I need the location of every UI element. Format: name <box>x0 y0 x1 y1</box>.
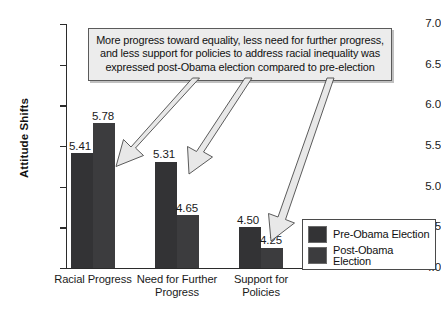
y-tick-6.0 <box>60 105 67 106</box>
category-label-racial-progress: Racial Progress <box>53 273 133 286</box>
bar-value-support-policies-post: 4.25 <box>260 235 282 247</box>
y-tick-6.5 <box>60 65 67 66</box>
y-tick-5.5 <box>60 146 67 147</box>
y-tick-label-6.0: 6.0 <box>389 99 441 111</box>
category-label-line1: Racial Progress <box>53 273 133 286</box>
bar-need-further-progress-pre <box>155 162 177 269</box>
bar-value-support-policies-pre: 4.50 <box>237 215 259 227</box>
category-label-need-further-progress: Need for Further Progress <box>136 273 218 299</box>
bar-need-further-progress-post <box>177 215 199 268</box>
y-tick-label-5.0: 5.0 <box>389 181 441 193</box>
bar-value-need-further-progress-post: 4.65 <box>176 203 198 215</box>
bar-value-need-further-progress-pre: 5.31 <box>153 149 175 161</box>
bar-value-racial-progress-post: 5.78 <box>92 111 114 123</box>
category-label-support-policies: Support for Policies <box>222 273 300 299</box>
y-tick-label-5.5: 5.5 <box>389 140 441 152</box>
category-label-line2: Progress <box>136 286 218 299</box>
y-tick-5.0 <box>60 187 67 188</box>
legend-label-post-obama: Post-Obama Election <box>333 245 430 267</box>
bar-chart: Attitude Shifts 7.0 6.5 6.0 5.5 5.0 4.5 … <box>0 0 441 315</box>
legend: Pre-Obama Election Post-Obama Election <box>302 219 436 270</box>
bar-support-policies-pre <box>239 227 261 268</box>
bar-racial-progress-post <box>93 123 115 268</box>
legend-swatch-post-obama <box>308 247 327 264</box>
legend-item-pre-obama: Pre-Obama Election <box>308 224 430 245</box>
legend-label-pre-obama: Pre-Obama Election <box>333 229 429 240</box>
bar-value-racial-progress-pre: 5.41 <box>69 141 91 153</box>
category-label-line1: Need for Further <box>136 273 218 286</box>
y-tick-4.5 <box>60 227 67 228</box>
legend-item-post-obama: Post-Obama Election <box>308 245 430 266</box>
y-tick-4.0 <box>60 268 67 269</box>
category-label-line1: Support for <box>222 273 300 286</box>
bar-support-policies-post <box>261 248 283 268</box>
annotation-arrow-2 <box>188 78 253 174</box>
annotation-callout-box: More progress toward equality, less need… <box>88 28 392 81</box>
category-label-line2: Policies <box>222 286 300 299</box>
y-axis-title: Attitude Shifts <box>18 84 30 192</box>
legend-swatch-pre-obama <box>308 226 327 243</box>
annotation-arrow-3 <box>269 78 335 241</box>
bar-racial-progress-pre <box>71 153 93 268</box>
y-tick-label-6.5: 6.5 <box>389 59 441 71</box>
y-tick-label-7.0: 7.0 <box>389 18 441 30</box>
y-tick-7.0 <box>60 24 67 25</box>
